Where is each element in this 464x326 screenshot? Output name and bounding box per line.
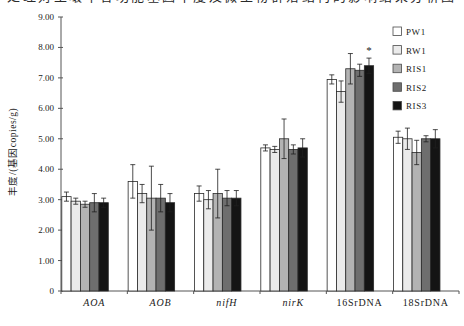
bar-RIS1-16SrDNA (346, 69, 355, 291)
bar-RIS3-AOB (165, 203, 174, 291)
legend-swatch-RIS1 (393, 64, 402, 73)
bar-RIS2-nirK (289, 149, 298, 291)
bar-RIS2-AOA (90, 203, 99, 291)
legend-label-RIS1: RIS1 (406, 64, 427, 74)
bar-RW1-AOA (71, 201, 80, 291)
category-label-nirK: nirK (282, 297, 304, 308)
bar-RIS3-18SrDNA (431, 139, 440, 291)
legend-swatch-RW1 (393, 46, 402, 55)
bar-RW1-16SrDNA (336, 92, 345, 291)
y-tick-label: 7.00 (38, 73, 54, 83)
bar-PW1-nirK (261, 148, 270, 291)
significance-asterisk: * (366, 44, 372, 56)
bar-PW1-nifH (194, 194, 203, 291)
y-tick-label: 6.00 (38, 103, 54, 113)
y-tick-label: 1.00 (38, 256, 54, 266)
bar-RIS3-16SrDNA (364, 66, 373, 291)
bars (62, 66, 440, 291)
category-label-AOA: AOA (82, 297, 105, 308)
bar-RIS2-18SrDNA (421, 139, 430, 291)
bar-RIS2-nifH (222, 198, 231, 291)
bar-PW1-18SrDNA (393, 137, 402, 291)
bar-RIS2-16SrDNA (355, 70, 364, 291)
y-axis-title: 丰度/(基因copies/g) (7, 108, 19, 196)
error-bars (64, 54, 438, 231)
y-tick-label: 5.00 (38, 134, 54, 144)
legend: PW1RW1RIS1RIS2RIS3 (393, 27, 427, 111)
y-tick-label: 8.00 (38, 42, 54, 52)
category-label-18SrDNA: 18SrDNA (403, 297, 449, 308)
annotations: * (366, 44, 372, 56)
bar-RIS1-AOA (80, 204, 89, 291)
bar-RIS3-nirK (298, 148, 307, 291)
bar-RW1-nifH (204, 200, 213, 291)
legend-swatch-RIS2 (393, 83, 402, 92)
legend-label-RIS3: RIS3 (406, 101, 427, 111)
bar-RIS3-AOA (99, 203, 108, 291)
bar-chart: 丰度/(基因copies/g) 01.002.003.004.005.006.0… (0, 0, 464, 326)
category-label-AOB: AOB (149, 297, 172, 308)
y-tick-label: 2.00 (38, 225, 54, 235)
bar-RIS1-18SrDNA (412, 152, 421, 291)
y-tick-label: 0 (50, 286, 55, 296)
y-tick-label: 9.00 (38, 12, 54, 22)
bar-RW1-nirK (270, 149, 279, 291)
bar-PW1-16SrDNA (327, 79, 336, 291)
y-tick-label: 4.00 (38, 164, 54, 174)
category-label-nifH: nifH (216, 297, 237, 308)
legend-label-PW1: PW1 (406, 27, 426, 37)
category-label-16SrDNA: 16SrDNA (336, 297, 382, 308)
bar-RIS1-nirK (279, 139, 288, 291)
legend-label-RIS2: RIS2 (406, 83, 427, 93)
bar-RW1-AOB (137, 194, 146, 291)
figure-page: { "top_caption_fragment": "处理对土壤中各功能基因丰度… (0, 0, 464, 326)
legend-swatch-RIS3 (393, 101, 402, 110)
legend-swatch-PW1 (393, 27, 402, 36)
bar-RW1-18SrDNA (403, 139, 412, 291)
y-tick-label: 3.00 (38, 195, 54, 205)
bar-RIS3-nifH (232, 198, 241, 291)
legend-label-RW1: RW1 (406, 46, 426, 56)
bar-PW1-AOA (62, 197, 71, 291)
